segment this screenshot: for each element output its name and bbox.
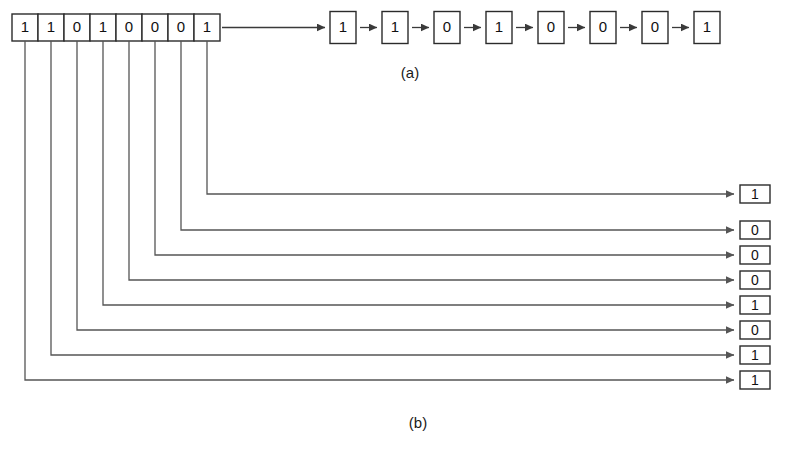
panel-b-output-value: 0 [751, 247, 759, 263]
panel-a-chain-value: 0 [651, 18, 659, 35]
source-bit-value: 0 [125, 18, 133, 35]
source-bit-value: 1 [21, 18, 29, 35]
source-bit-value: 0 [151, 18, 159, 35]
panel-b-output-value: 1 [751, 347, 759, 363]
panel-b-route-wire [207, 41, 734, 194]
panel-b-output-boxes: 10001011 [740, 185, 770, 389]
source-bit-string: 11010001 [12, 14, 220, 41]
panel-a-caption: (a) [380, 64, 440, 81]
panel-b-output-value: 1 [751, 372, 759, 388]
source-bit-value: 1 [203, 18, 211, 35]
panel-b-route-wire [181, 41, 734, 230]
panel-a-chain-value: 1 [339, 18, 347, 35]
source-bit-value: 1 [47, 18, 55, 35]
panel-b-output-value: 1 [751, 186, 759, 202]
panel-b-route-wire [77, 41, 734, 330]
source-bit-value: 0 [73, 18, 81, 35]
panel-b-output-value: 0 [751, 322, 759, 338]
panel-b-output-value: 0 [751, 272, 759, 288]
panel-a-chain-value: 0 [443, 18, 451, 35]
source-bit-value: 0 [177, 18, 185, 35]
source-bit-value: 1 [99, 18, 107, 35]
panel-a-chain: 11010001 [222, 12, 720, 44]
panel-b-routing-wires [25, 41, 734, 380]
panel-b-route-wire [25, 41, 734, 380]
panel-b-output-value: 0 [751, 222, 759, 238]
panel-b-caption: (b) [388, 414, 448, 431]
panel-b-route-wire [155, 41, 734, 255]
panel-b-route-wire [51, 41, 734, 355]
panel-a-chain-value: 1 [495, 18, 503, 35]
panel-b-output-value: 1 [751, 297, 759, 313]
panel-a-chain-value: 0 [599, 18, 607, 35]
panel-a-chain-value: 1 [391, 18, 399, 35]
panel-a-chain-value: 0 [547, 18, 555, 35]
panel-a-chain-value: 1 [703, 18, 711, 35]
